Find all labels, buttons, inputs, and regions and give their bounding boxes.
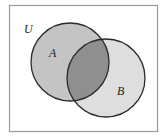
set-a-label: A — [48, 46, 57, 60]
universe-label: U — [24, 22, 34, 36]
venn-diagram: U A B — [0, 0, 166, 139]
set-b-label: B — [117, 84, 125, 98]
